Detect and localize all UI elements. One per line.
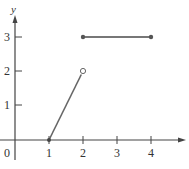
y-ticks: 1 2 3 [4, 30, 22, 112]
x-tick-label: 2 [80, 146, 86, 160]
closed-point [149, 35, 153, 39]
y-axis-label: y [10, 3, 16, 15]
closed-point [47, 138, 51, 142]
x-axis-arrow-icon [178, 138, 186, 143]
origin-label: 0 [4, 146, 10, 160]
piecewise-function-graph: y 0 1 2 3 4 1 2 3 [0, 0, 189, 169]
x-tick-label: 1 [46, 146, 52, 160]
segment-2 [81, 35, 153, 39]
y-tick-label: 2 [4, 64, 10, 78]
y-axis-arrow-icon [13, 15, 18, 23]
x-tick-label: 4 [148, 146, 154, 160]
open-point [80, 68, 85, 73]
y-tick-label: 3 [4, 30, 10, 44]
segment-1 [47, 68, 86, 142]
x-tick-label: 3 [114, 146, 120, 160]
y-tick-label: 1 [4, 98, 10, 112]
closed-point [81, 35, 85, 39]
